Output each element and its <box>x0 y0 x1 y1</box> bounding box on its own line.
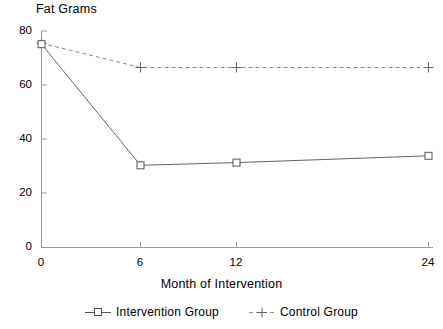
series-markers-control-group <box>37 38 434 72</box>
legend-item-intervention-group: Intervention Group <box>85 305 219 319</box>
chart-legend: Intervention Group Control Group <box>0 305 443 319</box>
legend-marker-open-square-icon <box>85 306 111 318</box>
series-markers-intervention-group <box>38 41 432 169</box>
legend-label-control-group: Control Group <box>280 305 358 319</box>
legend-marker-plus-icon <box>249 306 275 318</box>
series-line-control-group <box>42 43 429 67</box>
x-axis-title: Month of Intervention <box>0 277 443 291</box>
chart-container: Fat Grams 80 60 40 20 0 0 6 12 24 <box>0 0 443 329</box>
legend-label-intervention-group: Intervention Group <box>116 305 219 319</box>
series-line-intervention-group <box>42 44 429 165</box>
legend-item-control-group: Control Group <box>249 305 358 319</box>
